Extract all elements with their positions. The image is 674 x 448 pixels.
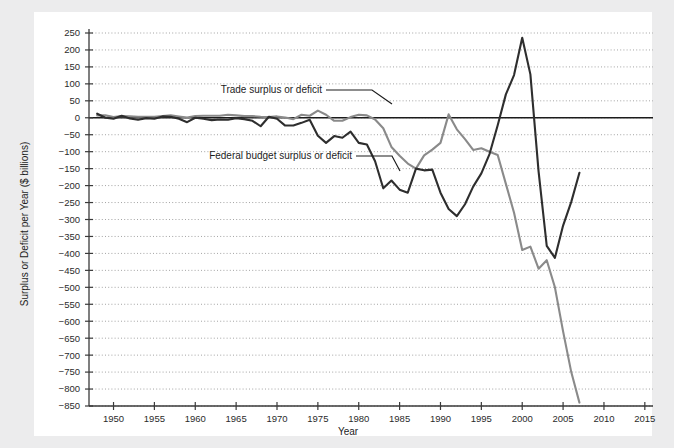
y-tick-label: 50 [69,95,80,106]
series-annotation-label: Trade surplus or deficit [221,84,323,95]
y-tick-label: −150 [59,163,80,174]
chart-container: 250200150100500−50−100−150−200−250−300−3… [0,0,674,448]
x-tick-label: 2010 [593,413,614,424]
y-tick-label: −250 [59,197,80,208]
y-tick-label: −800 [59,383,80,394]
x-tick-label: 1980 [348,413,369,424]
x-tick-label: 1995 [471,413,492,424]
y-tick-label: −650 [59,333,80,344]
y-tick-label: −400 [59,248,80,259]
y-tick-label: −550 [59,299,80,310]
y-tick-label: 100 [64,78,80,89]
y-tick-label: −450 [59,265,80,276]
y-tick-label: −50 [64,129,80,140]
y-axis-title: Surplus or Deficit per Year ($ billions) [19,142,30,307]
x-tick-label: 2005 [553,413,574,424]
y-tick-label: −750 [59,366,80,377]
y-tick-label: −500 [59,282,80,293]
y-axis-ticks: 250200150100500−50−100−150−200−250−300−3… [59,27,93,411]
series-annotations: Trade surplus or deficitFederal budget s… [209,84,400,171]
y-tick-label: −600 [59,316,80,327]
series-line [97,38,579,258]
y-tick-label: −700 [59,350,80,361]
y-tick-label: 200 [64,44,80,55]
axes [89,29,653,406]
y-tick-label: 0 [75,112,80,123]
y-tick-label: −300 [59,214,80,225]
x-tick-label: 1985 [389,413,410,424]
y-tick-label: −200 [59,180,80,191]
x-tick-label: 1965 [226,413,247,424]
line-chart: 250200150100500−50−100−150−200−250−300−3… [0,0,674,448]
y-tick-label: 150 [64,61,80,72]
x-tick-label: 2000 [512,413,533,424]
y-tick-label: −100 [59,146,80,157]
series-annotation-label: Federal budget surplus or deficit [209,150,352,161]
x-tick-label: 1950 [103,413,124,424]
x-axis-title: Year [338,426,359,437]
x-tick-label: 2015 [634,413,655,424]
x-tick-label: 1990 [430,413,451,424]
x-tick-label: 1975 [307,413,328,424]
annotation-leader-line [326,90,392,104]
y-tick-label: −350 [59,231,80,242]
y-tick-label: −850 [59,400,80,411]
x-tick-label: 1970 [266,413,287,424]
y-tick-label: 250 [64,27,80,38]
x-tick-label: 1960 [185,413,206,424]
x-tick-label: 1955 [144,413,165,424]
data-series [97,38,579,403]
grid-lines [89,33,653,406]
